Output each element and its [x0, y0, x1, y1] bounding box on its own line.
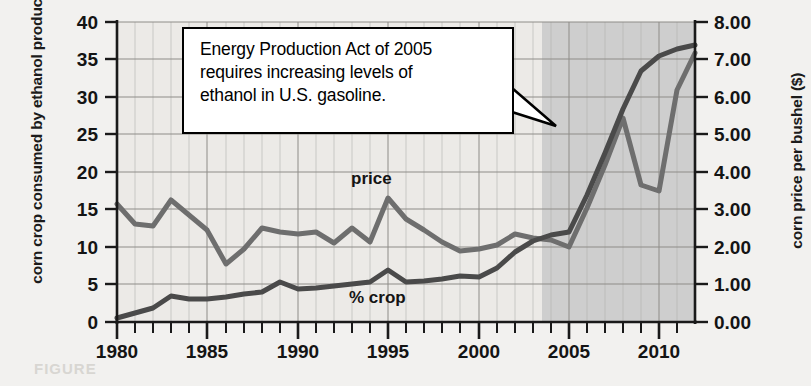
ytick-left-5: 5	[38, 274, 98, 296]
xtick-1995: 1995	[348, 341, 428, 363]
ytick-right-1: 1.00	[714, 274, 784, 296]
series-label-price: price	[351, 169, 392, 189]
ytick-left-30: 30	[38, 87, 98, 109]
series-label-crop: % crop	[349, 288, 406, 308]
y-axis-right-title: corn price per bushel ($)	[788, 36, 805, 286]
xtick-2010: 2010	[619, 341, 699, 363]
ytick-left-35: 35	[38, 49, 98, 71]
ytick-right-8: 8.00	[714, 12, 784, 34]
y-axis-left-title: corn crop consumed by ethanol production…	[28, 34, 45, 284]
annotation-callout-text: Energy Production Act of 2005requires in…	[200, 38, 505, 106]
ytick-right-6: 6.00	[714, 87, 784, 109]
xtick-1985: 1985	[167, 341, 247, 363]
ytick-left-25: 25	[38, 124, 98, 146]
page-bleed-text: FIGURE	[34, 360, 97, 377]
ytick-right-4: 4.00	[714, 162, 784, 184]
ytick-left-15: 15	[38, 199, 98, 221]
ytick-right-3: 3.00	[714, 199, 784, 221]
ytick-left-0: 0	[38, 312, 98, 334]
xtick-2005: 2005	[529, 341, 609, 363]
ytick-left-20: 20	[38, 162, 98, 184]
annotation-callout: Energy Production Act of 2005requires in…	[182, 27, 514, 134]
xtick-2000: 2000	[439, 341, 519, 363]
ytick-right-0: 0.00	[714, 312, 784, 334]
axis-ticks-right	[695, 22, 708, 322]
axis-ticks-left	[105, 22, 117, 322]
chart-figure: 40 35 30 25 20 15 10 5 0 8.00 7.00 6.00 …	[0, 0, 811, 386]
ytick-right-7: 7.00	[714, 49, 784, 71]
ytick-right-5: 5.00	[714, 124, 784, 146]
xtick-1990: 1990	[258, 341, 338, 363]
axis-ticks-x-major	[117, 322, 659, 339]
ytick-left-40: 40	[38, 12, 98, 34]
ytick-left-10: 10	[38, 237, 98, 259]
axis-ticks-x-minor	[135, 322, 677, 333]
ytick-right-2: 2.00	[714, 237, 784, 259]
